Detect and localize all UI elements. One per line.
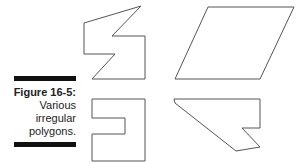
notched-rectangle (92, 99, 145, 161)
parallelogram (175, 7, 294, 79)
polygons-illustration (0, 0, 301, 163)
figure-page: Figure 16-5: Various irregular polygons. (0, 0, 301, 163)
zigzag-polygon (84, 6, 145, 79)
arrow-polygon (174, 99, 260, 151)
